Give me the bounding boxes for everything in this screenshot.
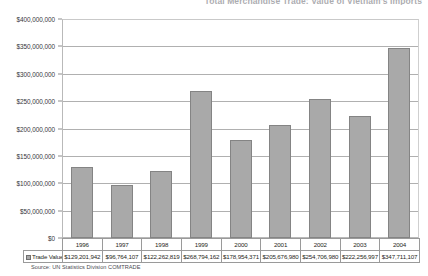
table-row-values: Trade Value $129,201,942$96,764,107$122,…	[24, 251, 420, 263]
table-corner-blank	[24, 239, 63, 251]
table-year-cell: 2000	[221, 239, 261, 251]
table-year-cell: 2004	[380, 239, 420, 251]
bar	[150, 171, 172, 238]
y-axis-tick-label: $400,000,000	[17, 16, 56, 23]
table-value-cell: $222,256,997	[340, 251, 380, 263]
bar	[71, 167, 93, 238]
y-axis-tick-label: $100,000,000	[17, 180, 56, 187]
table-year-cell: 1996	[63, 239, 103, 251]
table-year-cell: 2002	[300, 239, 340, 251]
bar-chart-figure: Total Merchandise Trade: Value of Vietna…	[0, 0, 428, 276]
table-value-cell: $347,711,107	[380, 251, 420, 263]
bar	[230, 140, 252, 238]
table-year-cell: 1998	[142, 239, 182, 251]
y-axis-tick-label: $50,000,000	[20, 207, 55, 214]
y-axis-tick-label: $350,000,000	[17, 43, 56, 50]
source-note: Source: UN Statistics Division COMTRADE	[31, 264, 141, 270]
bar	[111, 185, 133, 238]
bar	[349, 116, 371, 238]
chart-title: Total Merchandise Trade: Value of Vietna…	[0, 0, 428, 5]
bars-layer	[62, 19, 419, 238]
y-axis-tick-label: $150,000,000	[17, 152, 56, 159]
table-row-header: Trade Value	[24, 251, 63, 263]
table-year-cell: 2003	[340, 239, 380, 251]
y-axis: $400,000,000$350,000,000$300,000,000$250…	[0, 19, 62, 238]
table-year-cell: 2001	[261, 239, 301, 251]
table-value-cell: $178,954,371	[221, 251, 261, 263]
table-value-cell: $129,201,942	[63, 251, 103, 263]
bar	[388, 48, 410, 238]
table-value-cell: $205,676,980	[261, 251, 301, 263]
data-table: 199619971998199920002001200220032004 Tra…	[23, 238, 420, 263]
table-value-cell: $254,706,980	[300, 251, 340, 263]
table-year-cell: 1997	[102, 239, 142, 251]
table-row-years: 199619971998199920002001200220032004	[24, 239, 420, 251]
y-axis-tick-label: $200,000,000	[17, 125, 56, 132]
table-value-cell: $122,262,819	[142, 251, 182, 263]
legend-swatch-icon	[26, 255, 31, 260]
bar	[269, 125, 291, 238]
bar	[309, 99, 331, 238]
bar	[190, 91, 212, 238]
y-axis-tick-label: $300,000,000	[17, 70, 56, 77]
table-year-cell: 1999	[181, 239, 221, 251]
y-axis-tick-label: $250,000,000	[17, 98, 56, 105]
table-value-cell: $96,764,107	[102, 251, 142, 263]
table-row-header-label: Trade Value	[32, 253, 63, 260]
table-value-cell: $268,794,162	[181, 251, 221, 263]
